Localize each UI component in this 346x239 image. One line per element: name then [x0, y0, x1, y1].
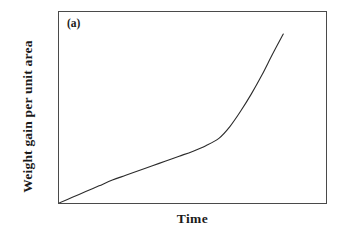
curve-plot [59, 12, 326, 203]
y-axis-label-text: Weight gain per unit area [20, 40, 36, 198]
x-axis-label-text: Time [177, 211, 208, 226]
y-axis-label: Weight gain per unit area [0, 0, 56, 239]
weight-gain-curve [59, 34, 283, 203]
plot-frame: (a) [58, 11, 327, 204]
x-axis-label: Time [58, 209, 327, 227]
figure-panel-a: Weight gain per unit area (a) Time [0, 0, 346, 239]
